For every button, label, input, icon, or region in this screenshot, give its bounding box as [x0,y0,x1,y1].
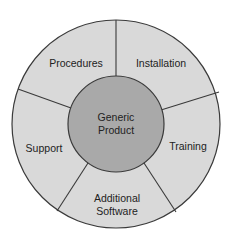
center-label-line2: Product [98,124,134,136]
segment-support: Support [26,142,63,154]
segment-training: Training [169,140,207,152]
segment-additional-software-line2: Software [96,205,138,217]
segment-procedures: Procedures [49,57,103,69]
segment-installation: Installation [136,57,186,69]
segment-additional-software-line1: Additional [94,192,140,204]
product-wheel-diagram: Generic Product Installation Training Ad… [0,0,231,245]
center-label-line1: Generic [98,111,135,123]
